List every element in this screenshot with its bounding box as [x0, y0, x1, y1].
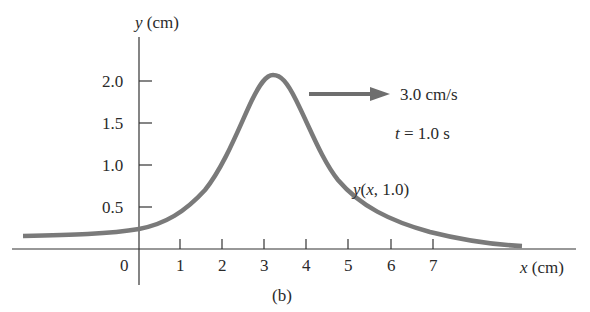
- x-axis-var: x: [520, 258, 528, 277]
- x-tick-label-7: 7: [429, 257, 438, 274]
- x-tick-label-3: 3: [260, 257, 269, 274]
- time-value: = 1.0 s: [400, 124, 450, 143]
- y-axis-unit: (cm): [147, 13, 179, 32]
- velocity-label: 3.0 cm/s: [400, 86, 458, 103]
- x-tick-label-1: 1: [176, 257, 185, 274]
- y-tick-label-1.0: 1.0: [102, 157, 123, 174]
- curve-label-y: y: [353, 180, 361, 199]
- y-axis-var: y: [135, 13, 143, 32]
- x-ticks: [180, 239, 433, 249]
- y-tick-label-0.5: 0.5: [102, 199, 123, 216]
- curve-label-rest: , 1.0): [374, 180, 409, 199]
- time-label: t = 1.0 s: [395, 125, 450, 142]
- curve-label-x: x: [366, 180, 374, 199]
- x-tick-label-2: 2: [218, 257, 227, 274]
- x-axis-unit: (cm): [532, 258, 564, 277]
- x-tick-label-4: 4: [302, 257, 311, 274]
- panel-label: (b): [272, 287, 292, 304]
- chart-canvas: [0, 0, 590, 312]
- x-tick-label-0: 0: [120, 257, 129, 274]
- x-axis-label: x (cm): [520, 259, 564, 276]
- x-tick-label-5: 5: [344, 257, 353, 274]
- y-tick-label-2.0: 2.0: [102, 73, 123, 90]
- y-ticks: [139, 81, 152, 207]
- y-tick-label-1.5: 1.5: [102, 115, 123, 132]
- x-tick-label-6: 6: [387, 257, 396, 274]
- velocity-arrow-icon: [309, 87, 390, 101]
- curve-label: y(x, 1.0): [353, 181, 409, 198]
- y-axis-label: y (cm): [135, 14, 179, 31]
